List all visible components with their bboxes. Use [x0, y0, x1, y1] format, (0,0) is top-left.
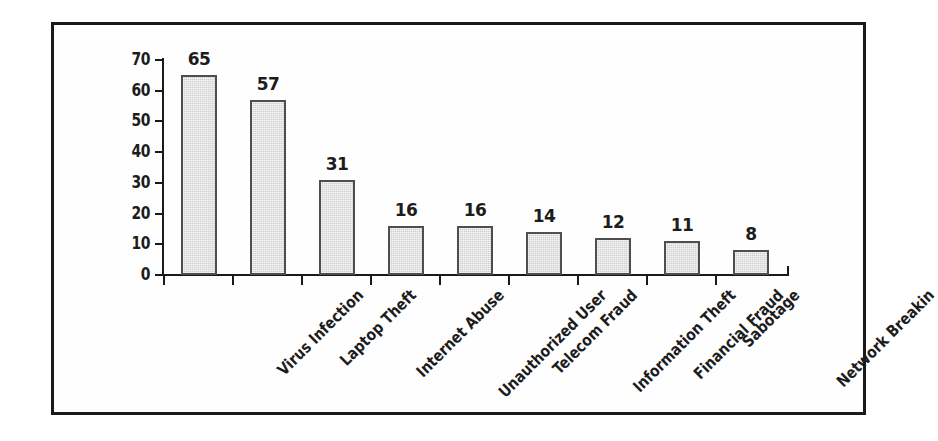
bar — [457, 226, 493, 275]
figure-frame: 010203040506070 65573116161412118 Virus … — [51, 22, 866, 415]
y-axis-tick-label: 30 — [104, 174, 150, 191]
bar-value-label: 12 — [581, 214, 645, 231]
y-axis-tick-label: 70 — [104, 51, 150, 68]
y-axis-tick-label: 40 — [104, 143, 150, 160]
y-axis-tick — [155, 90, 163, 92]
y-axis-tick — [155, 213, 163, 215]
y-axis-tick — [155, 151, 163, 153]
y-axis-tick-label: 20 — [104, 205, 150, 222]
bar-value-label: 65 — [167, 51, 231, 68]
y-axis-tick — [155, 243, 163, 245]
y-axis-tick-label: 0 — [104, 266, 150, 283]
x-axis-category-label: Financial Fraud — [691, 287, 786, 382]
y-axis-tick-label: 10 — [104, 235, 150, 252]
x-axis-category-label: Internet Abuse — [414, 287, 507, 380]
bar-value-label: 16 — [443, 202, 507, 219]
x-axis-tick — [301, 276, 303, 285]
bar-value-label: 14 — [512, 208, 576, 225]
x-axis-tick — [439, 276, 441, 285]
bar-value-label: 16 — [374, 202, 438, 219]
y-axis-tick — [155, 120, 163, 122]
x-axis-tick — [163, 276, 165, 285]
x-axis-tick — [646, 276, 648, 285]
bar — [664, 241, 700, 275]
bar — [595, 238, 631, 275]
bar — [319, 180, 355, 275]
bar-value-label: 57 — [236, 76, 300, 93]
bar-value-label: 31 — [305, 156, 369, 173]
x-axis-tick — [715, 276, 717, 285]
bar — [181, 75, 217, 275]
x-axis-category-label: Network Breakin — [834, 287, 937, 390]
x-axis-tick — [508, 276, 510, 285]
bar — [388, 226, 424, 275]
y-axis-tick-label: 60 — [104, 82, 150, 99]
bar — [250, 100, 286, 275]
y-axis-tick-label: 50 — [104, 112, 150, 129]
bar-chart-plot-area: 010203040506070 65573116161412118 Virus … — [54, 25, 869, 418]
bar-value-label: 8 — [719, 226, 783, 243]
bar — [526, 232, 562, 275]
x-axis-end-tick — [787, 266, 789, 276]
bar — [733, 250, 769, 275]
x-axis-tick — [577, 276, 579, 285]
y-axis-tick — [155, 59, 163, 61]
x-axis-tick — [232, 276, 234, 285]
y-axis-tick — [155, 274, 163, 276]
x-axis-tick — [370, 276, 372, 285]
y-axis-tick — [155, 182, 163, 184]
bar-value-label: 11 — [650, 217, 714, 234]
